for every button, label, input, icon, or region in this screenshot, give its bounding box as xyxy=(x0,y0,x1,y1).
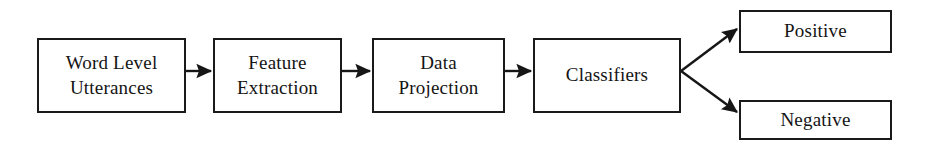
node-label: Classifiers xyxy=(562,63,652,87)
node-word-level-utterances: Word Level Utterances xyxy=(37,38,186,113)
node-label: Feature Extraction xyxy=(233,51,322,100)
node-data-projection: Data Projection xyxy=(372,38,505,113)
node-positive: Positive xyxy=(739,10,892,53)
flowchart-canvas: Word Level Utterances Feature Extraction… xyxy=(0,0,940,155)
node-label: Word Level Utterances xyxy=(62,51,162,100)
node-label: Negative xyxy=(776,108,854,132)
edge-classifiers-to-positive xyxy=(681,29,737,71)
node-feature-extraction: Feature Extraction xyxy=(213,38,342,113)
node-label: Data Projection xyxy=(394,51,482,100)
edge-classifiers-to-negative xyxy=(681,71,737,112)
node-label: Positive xyxy=(780,19,851,43)
node-classifiers: Classifiers xyxy=(533,38,681,113)
node-negative: Negative xyxy=(739,100,892,140)
